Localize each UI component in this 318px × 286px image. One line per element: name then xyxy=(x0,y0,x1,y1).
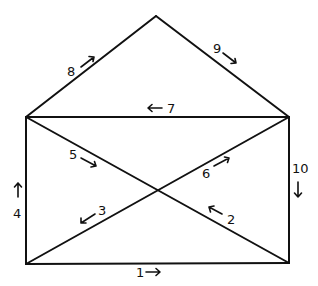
step-9: 9 xyxy=(213,41,236,64)
step-4: 4 xyxy=(13,183,22,221)
arrow-left-icon xyxy=(148,105,162,112)
step-label-9: 9 xyxy=(213,41,221,56)
step-label-10: 10 xyxy=(292,161,309,176)
step-label-3: 3 xyxy=(98,203,106,218)
step-6: 6 xyxy=(202,157,229,181)
edge-8 xyxy=(26,16,156,117)
step-label-1: 1 xyxy=(136,265,144,280)
step-5: 5 xyxy=(69,147,96,167)
step-2: 2 xyxy=(209,206,235,227)
arrow-down-right-icon xyxy=(81,158,96,167)
arrow-up-left-icon xyxy=(209,206,222,214)
house-diagram: 1 2 3 4 5 6 xyxy=(0,0,318,286)
arrow-up-icon xyxy=(15,183,22,197)
arrow-down-icon xyxy=(295,182,302,197)
edge-9 xyxy=(156,16,289,117)
step-label-4: 4 xyxy=(13,206,21,221)
step-label-6: 6 xyxy=(202,166,210,181)
edge-1 xyxy=(26,263,289,264)
step-3: 3 xyxy=(81,203,106,223)
step-1: 1 xyxy=(136,265,160,280)
step-7: 7 xyxy=(148,101,175,116)
step-label-8: 8 xyxy=(67,64,75,79)
step-label-7: 7 xyxy=(167,101,175,116)
step-label-2: 2 xyxy=(227,212,235,227)
arrow-down-left-icon xyxy=(81,214,95,223)
step-label-5: 5 xyxy=(69,147,77,162)
arrow-down-right-icon xyxy=(223,53,236,64)
edges xyxy=(26,16,289,264)
arrow-right-icon xyxy=(146,269,160,276)
step-10: 10 xyxy=(292,161,309,197)
